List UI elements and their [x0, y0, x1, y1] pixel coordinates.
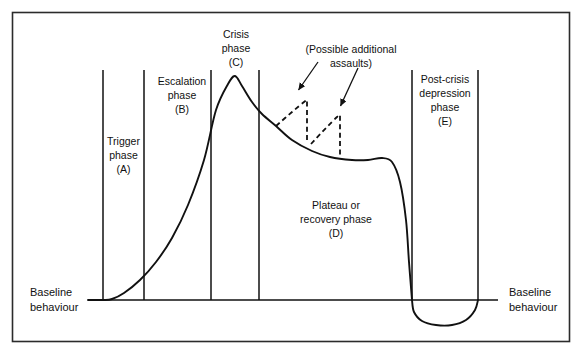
crisis-phase-line1: Crisis [223, 28, 249, 40]
baseline-right-line1: Baseline [509, 286, 551, 298]
baseline-left-line1: Baseline [30, 286, 72, 298]
plateau-phase-line3: (D) [329, 227, 344, 239]
crisis-phase-line3: (C) [229, 56, 244, 68]
escalation-phase-line3: (B) [175, 103, 189, 115]
trigger-phase-line1: Trigger [107, 135, 140, 147]
post-crisis-phase-line2: depression [419, 87, 471, 99]
baseline-left-line2: behaviour [30, 301, 79, 313]
escalation-phase-line2: phase [168, 89, 197, 101]
post-crisis-phase-line3: phase [431, 101, 460, 113]
baseline-right-line2: behaviour [509, 301, 558, 313]
plateau-phase-line1: Plateau or [312, 199, 360, 211]
trigger-phase-line2: phase [109, 149, 138, 161]
escalation-phase-line1: Escalation [158, 75, 207, 87]
post-crisis-phase-line1: Post-crisis [421, 73, 469, 85]
post-crisis-phase-line4: (E) [438, 115, 452, 127]
figure-root: Trigger phase (A) Escalation phase (B) C… [0, 0, 584, 354]
additional-assaults-line1: (Possible additional [305, 43, 396, 55]
crisis-phase-line2: phase [222, 42, 251, 54]
plateau-phase-line2: recovery phase [300, 213, 372, 225]
additional-assaults-line2: assaults) [330, 57, 372, 69]
figure-border [13, 13, 570, 342]
trigger-phase-line3: (A) [117, 163, 131, 175]
assault-cycle-diagram: Trigger phase (A) Escalation phase (B) C… [0, 0, 584, 354]
